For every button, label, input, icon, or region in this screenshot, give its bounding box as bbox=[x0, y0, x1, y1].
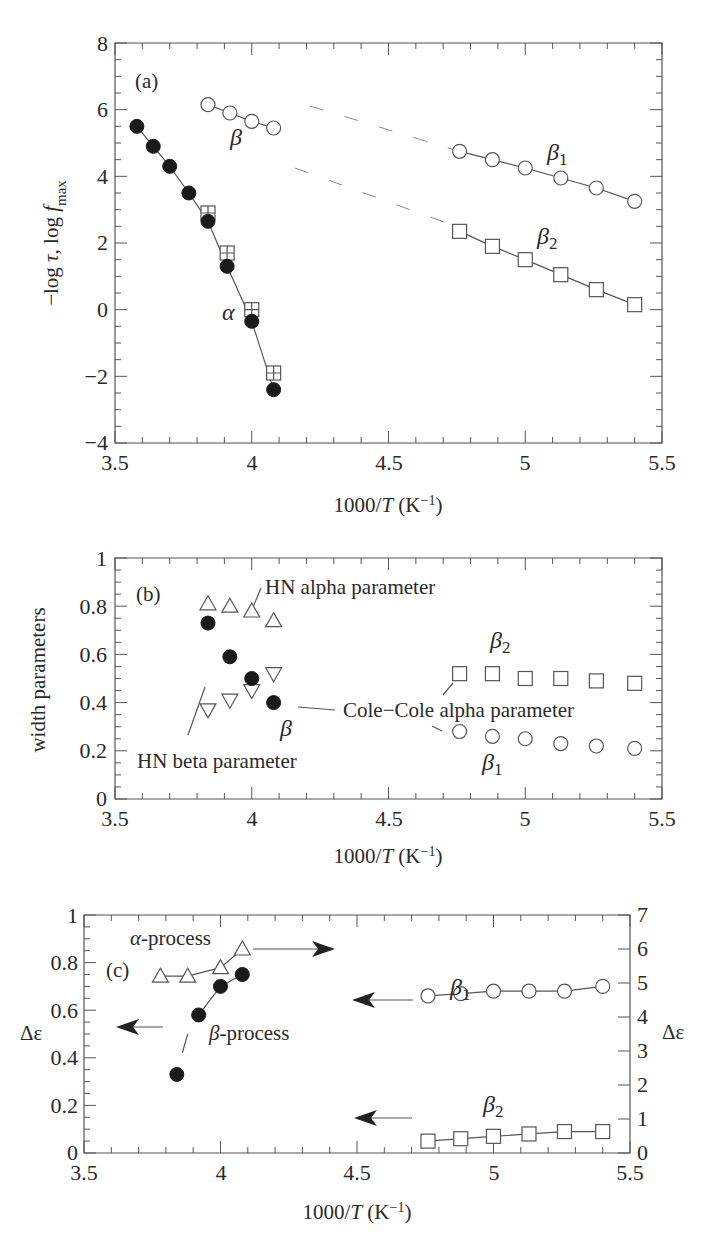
x-tick-label: 5 bbox=[489, 1160, 500, 1185]
panel-a-xtick-labels: 3.5 4 4.5 5 5.5 bbox=[101, 450, 676, 475]
panel-c-ytick-labels-left: 0 0.2 0.4 0.6 0.8 1 bbox=[51, 903, 79, 1165]
y-tick-label: 0.4 bbox=[80, 690, 108, 715]
filled-circle-marker bbox=[201, 214, 215, 228]
open-square-marker bbox=[485, 239, 499, 253]
open-circle-marker bbox=[554, 171, 568, 185]
x-tick-label: 5 bbox=[520, 450, 531, 475]
y-tick-label: 2 bbox=[97, 230, 108, 255]
beta1-leader bbox=[432, 726, 442, 731]
beta2-leader bbox=[443, 683, 453, 695]
panel-b-y-axis-label: width parameters bbox=[26, 607, 50, 752]
y-tick-label: 0.4 bbox=[51, 1045, 79, 1070]
filled-circle-marker bbox=[182, 186, 196, 200]
beta1-label: β1 bbox=[546, 139, 567, 169]
panel-c-xtick-labels: 3.5 4 4.5 5 5.5 bbox=[70, 1160, 644, 1185]
cole-cole-label: Cole−Cole alpha parameter bbox=[343, 698, 574, 722]
y-tick-label: −4 bbox=[85, 430, 108, 455]
open-circle-marker bbox=[223, 106, 237, 120]
triangle-up-marker bbox=[234, 941, 250, 955]
filled-circle-marker bbox=[201, 616, 215, 630]
open-square-marker bbox=[589, 283, 603, 297]
y-tick-label: 0 bbox=[96, 786, 107, 811]
panel-c-y-axis-label-left: Δε bbox=[20, 1021, 43, 1045]
x-tick-label: 4.5 bbox=[375, 450, 403, 475]
filled-circle-marker bbox=[220, 259, 234, 273]
beta1-label: β1 bbox=[481, 749, 502, 779]
panel-a-y-axis-label: −log τ, log fmax bbox=[39, 180, 69, 306]
filled-circle-marker bbox=[170, 1067, 184, 1081]
open-square-marker bbox=[628, 298, 642, 312]
open-circle-marker bbox=[267, 121, 281, 135]
open-square-marker bbox=[487, 1129, 501, 1143]
cole-cole-leader bbox=[298, 707, 335, 710]
panel-b-series bbox=[200, 596, 642, 756]
panel-a-ytick-labels: −4 −2 0 2 4 6 8 bbox=[85, 31, 108, 455]
filled-circle-marker bbox=[245, 672, 259, 686]
y-tick-label: −2 bbox=[85, 364, 108, 389]
triangle-down-marker bbox=[244, 685, 260, 699]
open-circle-marker bbox=[628, 741, 642, 755]
open-square-marker bbox=[453, 224, 467, 238]
panel-c: 3.5 4 4.5 5 5.5 0 0.2 0.4 0.6 0.8 1 0 1 … bbox=[20, 902, 685, 1224]
hn-beta-leader bbox=[188, 687, 205, 735]
triangle-up-marker bbox=[222, 598, 238, 612]
x-tick-label: 5 bbox=[520, 806, 531, 831]
triangle-up-marker bbox=[266, 613, 282, 627]
filled-circle-marker bbox=[163, 159, 177, 173]
y-tick-label: 0.2 bbox=[51, 1093, 79, 1118]
panel-c-x-axis-label: 1000/T (K−1) bbox=[303, 1200, 412, 1225]
y-tick-label: 0.8 bbox=[80, 594, 108, 619]
filled-circle-marker bbox=[146, 139, 160, 153]
triangle-up-marker bbox=[213, 960, 229, 974]
filled-circle-marker bbox=[245, 314, 259, 328]
beta-process-leader bbox=[182, 1034, 187, 1053]
panel-b-x-axis-label: 1000/T (K−1) bbox=[334, 844, 443, 869]
open-circle-marker bbox=[453, 144, 467, 158]
alpha-label: α bbox=[222, 299, 235, 325]
y-right-tick-label: 3 bbox=[637, 1038, 648, 1063]
y-tick-label: 6 bbox=[97, 97, 108, 122]
y-tick-label: 1 bbox=[67, 903, 78, 928]
filled-circle-marker bbox=[192, 1008, 206, 1022]
hn-alpha-label: HN alpha parameter bbox=[265, 575, 435, 599]
beta-process-arrow-left bbox=[116, 1019, 163, 1035]
y-tick-label: 0.2 bbox=[80, 738, 108, 763]
panel-c-ytick-labels-right: 0 1 2 3 4 5 6 7 bbox=[637, 902, 648, 1165]
x-tick-label: 4.5 bbox=[343, 1160, 371, 1185]
open-square-marker bbox=[453, 667, 467, 681]
open-circle-marker bbox=[487, 984, 501, 998]
hn-beta-label: HN beta parameter bbox=[137, 749, 297, 773]
panel-c-tag: (c) bbox=[106, 958, 129, 982]
panel-b-xtick-labels: 3.5 4 4.5 5 5.5 bbox=[101, 806, 676, 831]
open-circle-marker bbox=[589, 181, 603, 195]
series-line bbox=[137, 126, 274, 389]
filled-circle-marker bbox=[130, 119, 144, 133]
y-tick-label: 0.6 bbox=[80, 642, 108, 667]
y-tick-label: 0 bbox=[67, 1140, 78, 1165]
triangle-down-marker bbox=[200, 704, 216, 718]
open-circle-marker bbox=[518, 732, 532, 746]
x-tick-label: 5.5 bbox=[648, 450, 676, 475]
beta2-extrapolation bbox=[295, 168, 455, 226]
open-square-marker bbox=[421, 1134, 435, 1148]
open-square-marker bbox=[454, 1132, 468, 1146]
open-circle-marker bbox=[485, 153, 499, 167]
alpha-process-arrow-right bbox=[253, 941, 335, 957]
open-square-marker bbox=[628, 676, 642, 690]
y-right-tick-label: 0 bbox=[637, 1140, 648, 1165]
panel-a-frame bbox=[115, 43, 662, 443]
open-square-marker bbox=[554, 672, 568, 686]
alpha-process-line bbox=[160, 949, 242, 976]
beta-label: β bbox=[229, 124, 242, 150]
x-tick-label: 4 bbox=[247, 806, 258, 831]
open-circle-marker bbox=[628, 194, 642, 208]
open-circle-marker bbox=[421, 989, 435, 1003]
open-circle-marker bbox=[554, 737, 568, 751]
x-tick-label: 4.5 bbox=[375, 806, 403, 831]
beta1-arrow-left bbox=[352, 992, 413, 1008]
beta2-label: β2 bbox=[536, 223, 557, 253]
y-right-tick-label: 6 bbox=[637, 936, 648, 961]
open-circle-marker bbox=[522, 984, 536, 998]
y-tick-label: 0.6 bbox=[51, 998, 79, 1023]
panel-a-ticks bbox=[115, 43, 662, 443]
